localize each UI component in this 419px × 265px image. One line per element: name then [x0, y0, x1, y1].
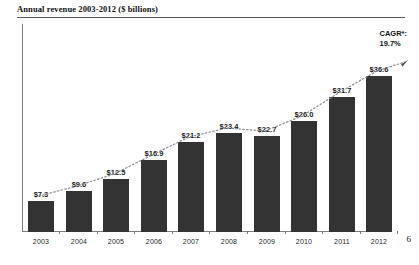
x-axis-label-2008: 2008 — [209, 238, 249, 245]
bar-value-label-2012: $36.6 — [356, 65, 402, 74]
bar-2005[interactable]: $12.5 — [103, 179, 129, 232]
bar-series: $7.32003$9.62004$12.52005$16.92006$21.22… — [0, 0, 419, 265]
bar-value-label-2005: $12.5 — [93, 168, 139, 177]
bar-rect-2011[interactable] — [329, 97, 355, 232]
bar-rect-2006[interactable] — [141, 160, 167, 232]
revenue-bar-chart: $7.32003$9.62004$12.52005$16.92006$21.22… — [0, 0, 419, 265]
bar-value-label-2006: $16.9 — [131, 149, 177, 158]
x-axis-tick-2006 — [172, 231, 173, 234]
x-axis-tick-2009 — [285, 231, 286, 234]
bar-rect-2005[interactable] — [103, 179, 129, 232]
x-axis-label-2011: 2011 — [322, 238, 362, 245]
bar-rect-2010[interactable] — [291, 121, 317, 232]
x-axis-tick-2007 — [209, 231, 210, 234]
bar-2006[interactable]: $16.9 — [141, 160, 167, 232]
bar-rect-2012[interactable] — [366, 76, 392, 232]
bar-2003[interactable]: $7.3 — [28, 201, 54, 232]
bar-2007[interactable]: $21.2 — [178, 142, 204, 232]
x-axis-label-2005: 2005 — [96, 238, 136, 245]
bar-rect-2008[interactable] — [216, 133, 242, 232]
bar-rect-2007[interactable] — [178, 142, 204, 232]
page-number: 6 — [407, 234, 412, 244]
x-axis-tick-2008 — [247, 231, 248, 234]
x-axis-label-2010: 2010 — [284, 238, 324, 245]
x-axis-tick-2004 — [97, 231, 98, 234]
x-axis-tick-2005 — [134, 231, 135, 234]
x-axis-label-2006: 2006 — [134, 238, 174, 245]
bar-rect-2003[interactable] — [28, 201, 54, 232]
x-axis-label-2003: 2003 — [21, 238, 61, 245]
x-axis-label-2004: 2004 — [59, 238, 99, 245]
cagr-annotation: CAGR*: 19.7% — [380, 29, 408, 48]
x-axis-tick-2010 — [322, 231, 323, 234]
bar-rect-2004[interactable] — [66, 191, 92, 232]
bar-2008[interactable]: $23.4 — [216, 133, 242, 232]
bar-2012[interactable]: $36.6 — [366, 76, 392, 232]
x-axis-label-2007: 2007 — [171, 238, 211, 245]
bar-value-label-2004: $9.6 — [56, 180, 102, 189]
x-axis-tick-2011 — [360, 231, 361, 234]
bar-rect-2009[interactable] — [254, 136, 280, 232]
x-axis-tick-2003 — [59, 231, 60, 234]
cagr-label: CAGR*: — [380, 29, 408, 39]
bar-2004[interactable]: $9.6 — [66, 191, 92, 232]
cagr-value: 19.7% — [380, 39, 408, 49]
bar-2009[interactable]: $22.7 — [254, 136, 280, 232]
bar-2010[interactable]: $26.0 — [291, 121, 317, 232]
x-axis-tick-2012 — [397, 231, 398, 234]
bar-value-label-2003: $7.3 — [18, 190, 64, 199]
bar-value-label-2011: $31.7 — [319, 86, 365, 95]
x-axis-label-2012: 2012 — [359, 238, 399, 245]
bar-value-label-2009: $22.7 — [244, 125, 290, 134]
x-axis-label-2009: 2009 — [247, 238, 287, 245]
bar-value-label-2007: $21.2 — [168, 131, 214, 140]
bar-value-label-2010: $26.0 — [281, 110, 327, 119]
bar-2011[interactable]: $31.7 — [329, 97, 355, 232]
